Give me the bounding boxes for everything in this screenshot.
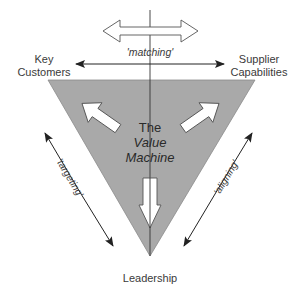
center-title-line2: Value: [110, 135, 190, 150]
center-title: The Value Machine: [110, 120, 190, 165]
node-leadership: Leadership: [110, 272, 190, 285]
node-supplier-line1: Supplier: [226, 53, 292, 66]
center-title-line1: The: [110, 120, 190, 135]
node-key-customers-line2: Customers: [14, 66, 74, 79]
node-supplier-capabilities: Supplier Capabilities: [226, 53, 292, 79]
center-title-line3: Machine: [110, 150, 190, 165]
node-supplier-line2: Capabilities: [226, 66, 292, 79]
relation-matching-label: 'matching': [110, 46, 190, 59]
value-machine-diagram: Key Customers Supplier Capabilities 'mat…: [0, 0, 298, 301]
hollow-double-arrow-icon: [103, 20, 198, 42]
node-key-customers: Key Customers: [14, 53, 74, 79]
node-key-customers-line1: Key: [14, 53, 74, 66]
